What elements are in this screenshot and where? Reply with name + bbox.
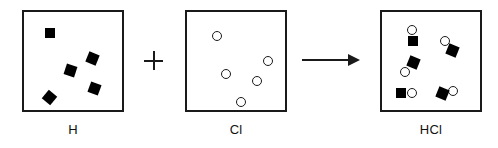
hydrogen-container-box bbox=[22, 10, 124, 112]
chlorine-label: Cl bbox=[185, 122, 287, 137]
chlorine-atom bbox=[212, 31, 222, 41]
chlorine-atom bbox=[252, 76, 262, 86]
hydrogen-atom bbox=[396, 88, 406, 98]
chlorine-atom bbox=[236, 97, 246, 107]
chlorine-atom bbox=[400, 67, 410, 77]
particle-diagram: H Cl HCl bbox=[0, 0, 498, 148]
hydrogen-label: H bbox=[22, 122, 124, 137]
hydrogen-atom bbox=[45, 28, 55, 38]
chlorine-atom bbox=[263, 56, 273, 66]
arrow-head bbox=[348, 54, 360, 66]
arrow-shaft bbox=[302, 59, 350, 61]
hydrogen-chloride-label: HCl bbox=[380, 122, 482, 137]
chlorine-atom bbox=[221, 69, 231, 79]
chlorine-atom bbox=[407, 25, 417, 35]
reaction-arrow-icon bbox=[302, 54, 360, 66]
chlorine-atom bbox=[448, 86, 458, 96]
hydrogen-atom bbox=[408, 36, 418, 46]
chlorine-atom bbox=[407, 88, 417, 98]
plus-operator-icon bbox=[144, 51, 163, 70]
